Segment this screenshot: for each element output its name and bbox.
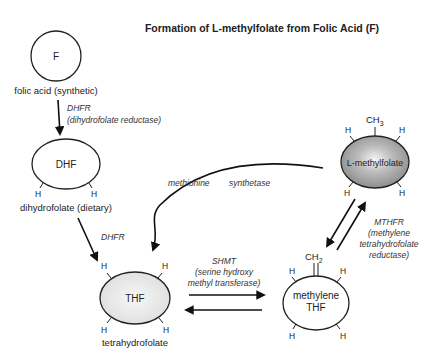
lmf-h-2: H <box>399 125 405 135</box>
arrow-dhf-to-thf <box>78 218 97 260</box>
shmt-enzyme-label: SHMT <box>212 256 237 266</box>
mthfr-enzyme-label: MTHFR <box>374 217 404 227</box>
methylene-thf-symbol-1: methylene <box>293 290 340 301</box>
methylene-thf-node: methylene THF CH2 H H H H <box>283 251 349 341</box>
dhf-node: DHF H H <box>32 139 100 199</box>
dhfr-enzyme-label: DHFR <box>67 103 91 113</box>
dhf-symbol: DHF <box>56 159 77 170</box>
shmt-enzyme-fullname-2: methyl transferase) <box>188 278 261 288</box>
dhfr-enzyme-fullname: (dihydrofolate reductase) <box>67 115 161 125</box>
l-methylfolate-node: L-methylfolate CH3 H H H H <box>341 114 409 198</box>
dhf-label: dihydrofolate (dietary) <box>20 202 112 213</box>
dhfr-enzyme-label-2: DHFR <box>101 232 125 242</box>
methylene-group-label: CH2 <box>305 251 323 264</box>
arrow-f-to-dhf <box>58 100 60 134</box>
folic-acid-symbol: F <box>53 51 59 62</box>
folic-acid-node: F <box>31 31 81 81</box>
lmf-h-3: H <box>344 188 350 198</box>
thf-label: tetrahydrofolate <box>102 337 168 348</box>
methionine-synthetase-label-1: methionine <box>168 178 210 188</box>
thf-h-3: H <box>101 325 107 335</box>
methylene-h-3: H <box>289 331 295 341</box>
dhf-h-left: H <box>35 189 41 199</box>
methyl-group-label: CH3 <box>366 114 384 127</box>
thf-h-4: H <box>163 325 169 335</box>
arrow-lmf-to-methylene <box>327 199 355 246</box>
methylene-h-1: H <box>289 266 295 276</box>
methylene-h-4: H <box>340 331 346 341</box>
mthfr-enzyme-fullname-3: reductase) <box>369 250 409 260</box>
lmf-h-1: H <box>345 125 351 135</box>
thf-node: THF H H H H <box>100 261 170 335</box>
folic-acid-label: folic acid (synthetic) <box>14 85 97 96</box>
lmf-h-4: H <box>399 188 405 198</box>
diagram-title: Formation of L-methylfolate from Folic A… <box>145 22 379 34</box>
mthfr-enzyme-fullname-2: tetrahydrofolate <box>359 239 418 249</box>
thf-symbol: THF <box>125 293 144 304</box>
thf-h-1: H <box>101 261 107 271</box>
folate-pathway-diagram: Formation of L-methylfolate from Folic A… <box>0 0 435 360</box>
methionine-synthetase-label-2: synthetase <box>229 178 270 188</box>
mthfr-enzyme-fullname-1: (methylene <box>368 228 410 238</box>
methylene-h-2: H <box>340 266 346 276</box>
arrow-lmf-to-thf <box>153 164 323 250</box>
methylene-thf-symbol-2: THF <box>306 302 325 313</box>
dhf-h-right: H <box>91 189 97 199</box>
shmt-enzyme-fullname-1: (serine hydroxy <box>195 267 254 277</box>
thf-h-2: H <box>162 261 168 271</box>
l-methylfolate-symbol: L-methylfolate <box>347 158 404 168</box>
